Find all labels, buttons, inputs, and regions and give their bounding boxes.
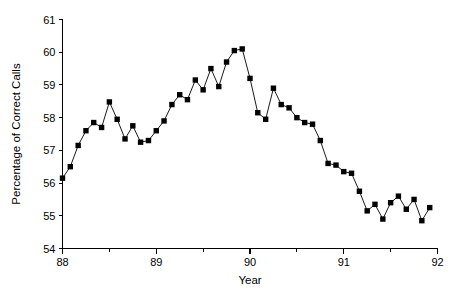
data-point-marker (216, 84, 221, 89)
data-point-marker (60, 175, 65, 180)
data-point-marker (138, 139, 143, 144)
data-point-marker (302, 120, 307, 125)
data-point-marker (154, 128, 159, 133)
data-point-marker (318, 138, 323, 143)
data-point-marker (411, 197, 416, 202)
y-tick-label: 60 (43, 46, 55, 58)
data-point-marker (388, 200, 393, 205)
data-point-marker (349, 171, 354, 176)
data-point-marker (193, 77, 198, 82)
data-point-marker (380, 216, 385, 221)
data-point-marker (357, 189, 362, 194)
x-tick-label: 88 (56, 256, 68, 268)
data-point-marker (122, 136, 127, 141)
x-tick-label: 92 (431, 256, 443, 268)
data-point-marker (333, 162, 338, 167)
data-point-marker (286, 105, 291, 110)
data-point-marker (364, 208, 369, 213)
data-point-marker (271, 86, 276, 91)
chart-figure: 54555657585960618889909192YearPercentage… (0, 0, 459, 291)
data-point-marker (294, 115, 299, 120)
data-point-marker (107, 99, 112, 104)
x-tick-label: 90 (244, 256, 256, 268)
data-point-marker (310, 121, 315, 126)
data-point-marker (91, 120, 96, 125)
data-point-marker (68, 164, 73, 169)
y-tick-label: 59 (43, 79, 55, 91)
data-point-marker (255, 110, 260, 115)
data-point-marker (185, 97, 190, 102)
y-tick-label: 58 (43, 112, 55, 124)
data-point-marker (263, 117, 268, 122)
data-point-marker (114, 117, 119, 122)
x-axis-title: Year (238, 274, 261, 286)
data-point-marker (83, 128, 88, 133)
data-point-marker (146, 138, 151, 143)
data-point-marker (247, 76, 252, 81)
data-point-marker (161, 118, 166, 123)
data-point-marker (427, 205, 432, 210)
x-tick-label: 91 (338, 256, 350, 268)
y-tick-label: 57 (43, 144, 55, 156)
y-axis-title: Percentage of Correct Calls (10, 63, 22, 205)
data-point-marker (240, 46, 245, 51)
y-tick-label: 55 (43, 210, 55, 222)
data-point-marker (130, 123, 135, 128)
data-point-marker (341, 169, 346, 174)
data-point-marker (177, 92, 182, 97)
y-tick-label: 54 (43, 243, 55, 255)
data-point-marker (396, 193, 401, 198)
data-point-marker (75, 143, 80, 148)
data-point-marker (224, 59, 229, 64)
data-point-marker (200, 87, 205, 92)
data-point-marker (279, 102, 284, 107)
x-tick-label: 89 (150, 256, 162, 268)
data-line (63, 49, 430, 221)
y-tick-label: 61 (43, 14, 55, 26)
y-tick-label: 56 (43, 177, 55, 189)
data-point-marker (169, 102, 174, 107)
line-chart: 54555657585960618889909192YearPercentage… (0, 0, 459, 291)
data-point-marker (208, 66, 213, 71)
data-point-marker (232, 48, 237, 53)
data-point-marker (372, 202, 377, 207)
data-point-marker (419, 218, 424, 223)
data-point-marker (325, 161, 330, 166)
data-point-marker (404, 207, 409, 212)
data-point-marker (99, 125, 104, 130)
